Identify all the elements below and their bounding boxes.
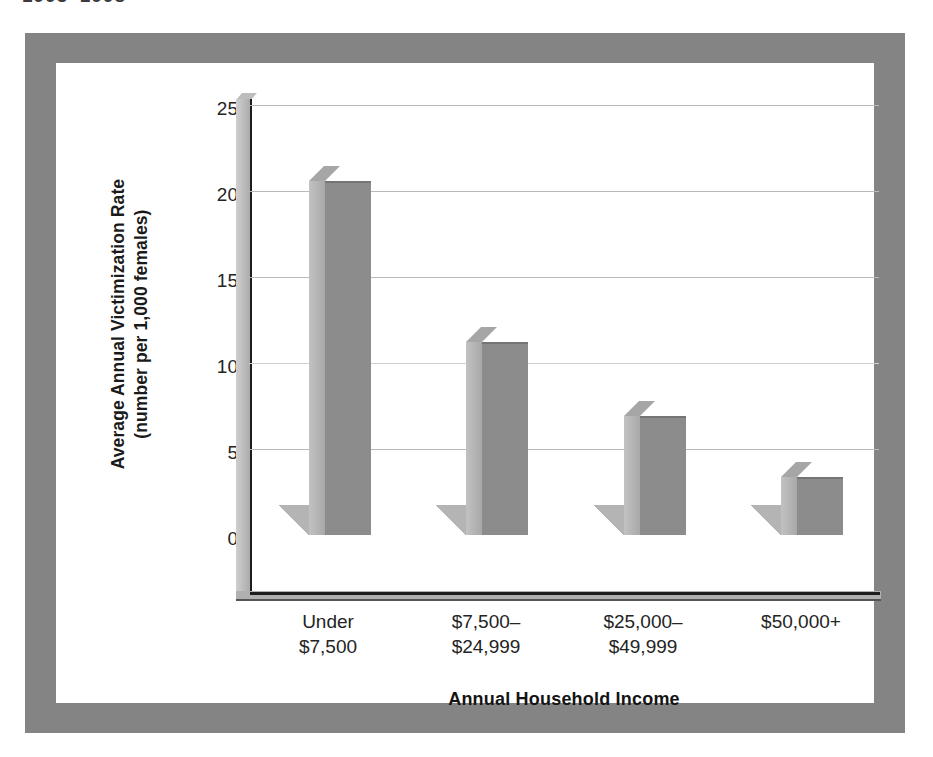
bar-front-top-edge: [482, 342, 528, 344]
figure-frame: Average Annual Victimization Rate (numbe…: [25, 33, 905, 733]
bar-shadow: [594, 505, 624, 535]
bar-shadow: [751, 505, 781, 535]
gridline-25: [249, 105, 879, 106]
bar-under-7500: [309, 181, 371, 535]
y-tick-15: 15: [194, 271, 238, 290]
bar-top-face: [781, 462, 812, 477]
bar-50000-plus: [781, 477, 843, 535]
bar-front-top-edge: [640, 416, 686, 418]
bar-left-face: [466, 342, 482, 535]
y-tick-10: 10: [194, 357, 238, 376]
x-tick-line1: $25,000–: [564, 609, 722, 634]
bar-25000-49999: [624, 416, 686, 535]
y-axis-title-line1: Average Annual Victimization Rate: [108, 179, 128, 470]
bar-7500-24999: [466, 342, 528, 535]
bar-front-top-edge: [797, 477, 843, 479]
x-tick-label-under-7500: Under $7,500: [249, 609, 407, 660]
bar-shadow: [436, 505, 466, 535]
y-tick-0: 0: [194, 529, 238, 548]
x-tick-line1: $50,000+: [722, 609, 880, 634]
bar-front-face: [482, 342, 528, 535]
bar-front-top-edge: [325, 181, 371, 183]
figure-inner-panel: Average Annual Victimization Rate (numbe…: [56, 63, 874, 703]
bar-front-face: [640, 416, 686, 535]
bar-left-face: [624, 416, 640, 535]
x-tick-label-7500-24999: $7,500– $24,999: [407, 609, 565, 660]
y-tick-25: 25: [194, 99, 238, 118]
y-axis-tick-labels: 25 20 15 10 5 0: [176, 63, 238, 703]
y-axis-title-line2: (number per 1,000 females): [130, 134, 153, 514]
x-tick-line2: $49,999: [564, 634, 722, 659]
bar-top-face: [466, 327, 497, 342]
bar-left-face: [309, 181, 325, 535]
cropped-header-text-value: 1993–1998: [22, 0, 126, 7]
cropped-header-text: 1993–1998: [22, 0, 222, 12]
x-tick-line1: $7,500–: [407, 609, 565, 634]
bar-front-face: [325, 181, 371, 535]
y-tick-5: 5: [194, 443, 238, 462]
bar-shadow: [279, 505, 309, 535]
x-tick-line1: Under: [249, 609, 407, 634]
x-axis-title: Annual Household Income: [249, 689, 879, 710]
bar-top-face: [309, 166, 340, 181]
x-tick-line2: $24,999: [407, 634, 565, 659]
plot-area: [249, 105, 879, 585]
bar-front-face: [797, 477, 843, 535]
x-axis-line: [250, 592, 880, 595]
bar-left-face: [781, 477, 797, 535]
bar-chart: Average Annual Victimization Rate (numbe…: [56, 63, 874, 703]
x-tick-line2: $7,500: [249, 634, 407, 659]
x-tick-label-50000-plus: $50,000+: [722, 609, 880, 634]
x-axis-floor-edge: [236, 599, 881, 601]
y-tick-20: 20: [194, 185, 238, 204]
x-axis-tick-labels: Under $7,500 $7,500– $24,999 $25,000– $4…: [249, 609, 879, 673]
x-tick-label-25000-49999: $25,000– $49,999: [564, 609, 722, 660]
bar-top-face: [624, 401, 655, 416]
y-axis-title: Average Annual Victimization Rate (numbe…: [107, 134, 153, 514]
